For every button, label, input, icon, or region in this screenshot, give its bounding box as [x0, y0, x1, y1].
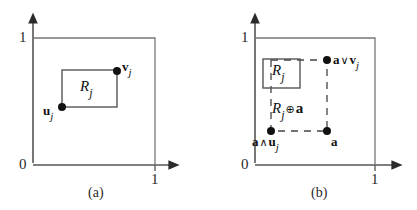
panel-a-point-uj-sub: j: [50, 110, 53, 122]
figure-canvas: [0, 0, 417, 210]
panel-b-dashed-rect-label-base: R: [272, 100, 281, 116]
panel-a-point-vj-sub: j: [129, 66, 132, 78]
panel-a-point-label-vj: vj: [122, 60, 132, 73]
panel-b-point-a-meet-uj-sub: j: [276, 141, 279, 153]
panel-b-origin-label-0: 0: [241, 157, 249, 172]
panel-a-caption: (a): [88, 186, 104, 200]
panel-a: [33, 22, 170, 171]
panel-a-origin-label-0: 0: [19, 157, 27, 172]
panel-b-point-a-join-vj-sub: j: [356, 59, 359, 71]
panel-a-y-axis-label-1: 1: [19, 30, 27, 45]
panel-a-unit-square: [33, 38, 155, 165]
panel-b-y-axis-label-1: 1: [241, 30, 249, 45]
panel-a-x-axis-label-1: 1: [151, 172, 159, 187]
panel-b-point-a-base: a: [331, 134, 338, 149]
panel-b-dashed-rect-label-tail: a: [296, 100, 304, 116]
panel-b-point-a-meet-uj-base: u: [269, 134, 276, 149]
panel-a-rect-label-sub: j: [89, 86, 92, 100]
panel-b-point-a: [323, 127, 331, 135]
panel-b-point-a-meet-uj-prefix: a: [252, 134, 259, 149]
panel-b-point-label-a-join-vj: a∨vj: [333, 53, 359, 66]
panel-b-rect-label-base: R: [272, 62, 281, 78]
panel-a-rect-label-Rj: Rj: [80, 79, 93, 94]
panel-a-rect-label-base: R: [80, 78, 89, 94]
panel-b-rect-label-sub: j: [281, 70, 284, 84]
panel-b-rect-label-Rj: Rj: [272, 63, 285, 78]
panel-b-point-a-join-vj-prefix: a: [333, 52, 340, 67]
panel-a-point-vj: [113, 67, 121, 75]
panel-b-point-label-a-meet-uj: a∧uj: [252, 135, 279, 148]
panel-a-point-uj: [58, 103, 66, 111]
panel-b-dashed-rect-label: Rj⊕a: [272, 101, 303, 116]
figure-root: 1 0 1 Rj uj vj (a) 1 0 1 Rj Rj⊕a a∧uj a …: [0, 0, 417, 210]
panel-b-caption: (b): [311, 186, 327, 200]
wedge-icon: ∧: [259, 136, 269, 149]
panel-b-dashed-rect-label-sub: j: [281, 108, 284, 122]
panel-b-x-axis-label-1: 1: [371, 172, 379, 187]
panel-b-point-a-join-vj: [323, 56, 331, 64]
vee-icon: ∨: [340, 54, 350, 67]
panel-a-point-label-uj: uj: [43, 104, 53, 117]
panel-b-point-label-a: a: [331, 135, 338, 148]
oplus-icon: ⊕: [285, 103, 296, 116]
panel-a-point-vj-base: v: [122, 59, 129, 74]
